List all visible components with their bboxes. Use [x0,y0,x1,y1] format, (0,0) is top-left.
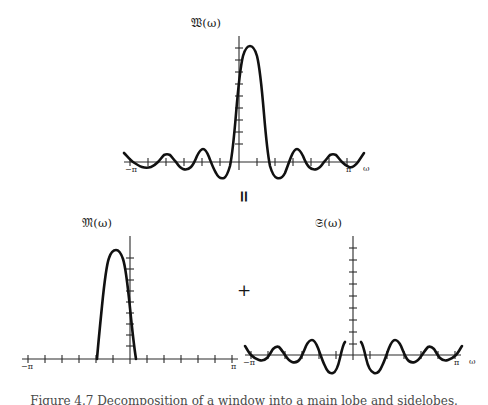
br-xtick-right: π [454,359,459,367]
bottom-left-function-label: 𝔐(ω) [82,218,112,230]
figure-caption: Figure 4.7 Decomposition of a window int… [0,394,488,405]
figure-container: 𝔚(ω) [0,0,488,405]
bottom-right-curve-left [245,340,345,373]
top-xtick-left: −π [125,166,137,174]
top-panel-function-label: 𝔚(ω) [191,18,221,30]
sidelobe-panel: 𝔖(ω) [243,218,483,378]
top-panel-curve [124,46,364,178]
br-x-axis-label: ω [469,358,476,366]
bl-xtick-left: −π [21,363,33,371]
top-x-axis-label: ω [363,165,370,173]
bottom-right-curve-right [361,340,462,373]
equals-operator: = [236,178,252,214]
br-xtick-left: −π [243,359,255,367]
bl-xtick-right: π [231,363,236,371]
window-transform-panel: 𝔚(ω) [120,18,370,188]
bottom-left-plot [18,218,244,378]
bottom-right-function-label: 𝔖(ω) [315,218,342,230]
top-xtick-right: π [346,166,351,174]
bottom-right-plot [243,218,483,378]
main-lobe-panel: 𝔐(ω) [18,218,244,378]
top-panel-plot [120,18,370,188]
